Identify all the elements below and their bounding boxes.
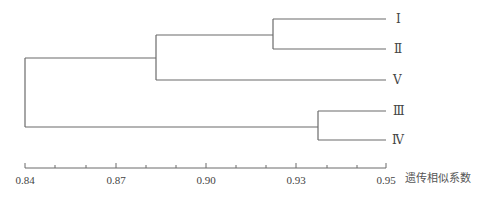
tick-label-0-93: 0.93 xyxy=(286,174,306,186)
leaf-label-5: Ⅴ xyxy=(392,73,402,87)
leaf-label-3: Ⅲ xyxy=(393,104,405,118)
dendrogram-chart: Ⅰ Ⅱ Ⅴ Ⅲ Ⅳ 0.84 0.87 0.90 0.93 0.95 遗传相似系… xyxy=(0,0,485,198)
leaf-label-4: Ⅳ xyxy=(392,133,405,147)
leaf-labels: Ⅰ Ⅱ Ⅴ Ⅲ Ⅳ xyxy=(392,12,405,147)
tick-label-0-95: 0.95 xyxy=(376,174,396,186)
dendrogram-branches xyxy=(25,19,386,140)
tick-label-0-90: 0.90 xyxy=(196,174,216,186)
tick-label-0-87: 0.87 xyxy=(106,174,126,186)
leaf-label-1: Ⅰ xyxy=(396,12,401,26)
x-axis-title: 遗传相似系数 xyxy=(405,171,471,185)
tick-label-0-84: 0.84 xyxy=(15,174,35,186)
leaf-label-2: Ⅱ xyxy=(394,42,402,56)
x-axis: 0.84 0.87 0.90 0.93 0.95 遗传相似系数 xyxy=(15,163,471,186)
